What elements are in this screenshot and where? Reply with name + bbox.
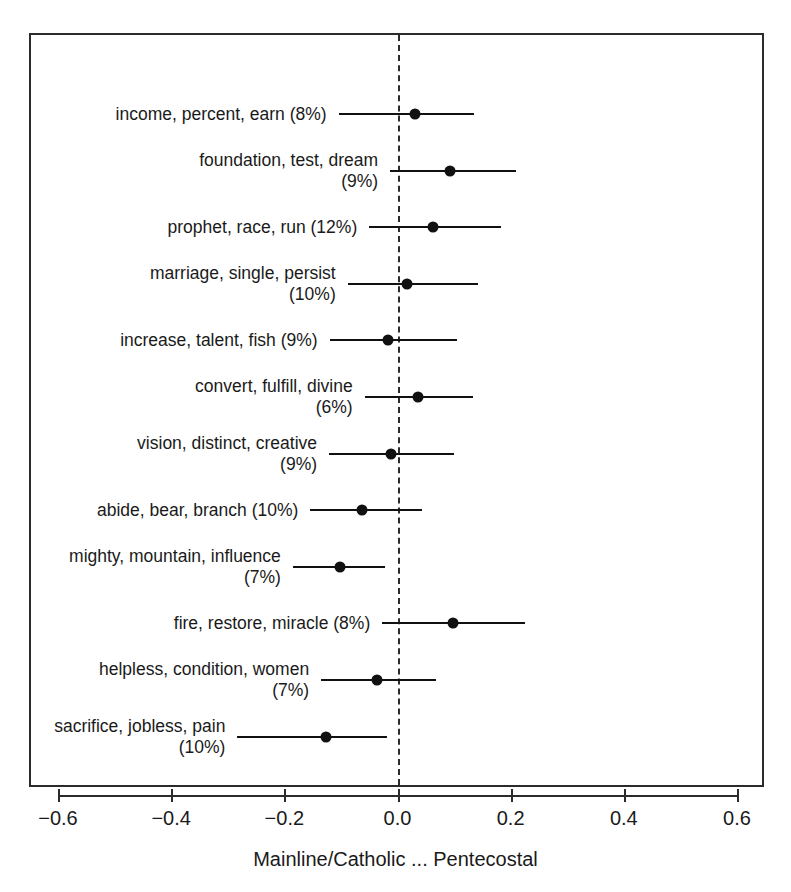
topic-row-label: vision, distinct, creative (9%) (137, 433, 317, 475)
topic-row-label: convert, fulfill, divine (6%) (195, 376, 353, 418)
confidence-interval-line (339, 113, 475, 115)
x-tick-mark (737, 789, 739, 802)
x-axis-title: Mainline/Catholic ... Pentecostal (0, 848, 791, 871)
point-estimate-marker (320, 731, 331, 742)
confidence-interval-line (237, 736, 386, 738)
topic-row-label: helpless, condition, women (7%) (99, 659, 309, 701)
x-tick-label: −0.6 (38, 806, 77, 830)
point-estimate-marker (385, 448, 396, 459)
point-estimate-marker (383, 335, 394, 346)
point-estimate-marker (445, 165, 456, 176)
coefficient-plot-figure: income, percent, earn (8%)foundation, te… (0, 0, 791, 892)
x-tick-mark (284, 789, 286, 802)
point-estimate-marker (410, 109, 421, 120)
x-tick-label: 0.6 (723, 806, 751, 830)
topic-row-label: sacrifice, jobless, pain (10%) (54, 716, 225, 758)
confidence-interval-line (348, 283, 479, 285)
point-estimate-marker (427, 222, 438, 233)
point-estimate-marker (412, 392, 423, 403)
x-tick-mark (511, 789, 513, 802)
topic-row-label: prophet, race, run (12%) (168, 217, 358, 238)
topic-row-label: abide, bear, branch (10%) (97, 500, 298, 521)
x-tick-label: −0.4 (151, 806, 190, 830)
x-tick-label: 0.0 (384, 806, 412, 830)
x-tick-mark (171, 789, 173, 802)
topic-row-label: increase, talent, fish (9%) (120, 330, 317, 351)
point-estimate-marker (334, 561, 345, 572)
topic-row-label: marriage, single, persist (10%) (150, 263, 336, 305)
topic-row-label: fire, restore, miracle (8%) (174, 613, 370, 634)
topic-row-label: mighty, mountain, influence (7%) (69, 546, 281, 588)
topic-row-label: foundation, test, dream (9%) (199, 150, 378, 192)
x-tick-label: 0.2 (497, 806, 525, 830)
x-tick-label: 0.4 (610, 806, 638, 830)
topic-row-label: income, percent, earn (8%) (116, 104, 327, 125)
zero-reference-line (398, 35, 400, 785)
point-estimate-marker (372, 675, 383, 686)
point-estimate-marker (401, 278, 412, 289)
x-tick-mark (58, 789, 60, 802)
x-tick-mark (624, 789, 626, 802)
point-estimate-marker (357, 505, 368, 516)
x-tick-label: −0.2 (265, 806, 304, 830)
point-estimate-marker (447, 618, 458, 629)
x-tick-mark (398, 789, 400, 802)
